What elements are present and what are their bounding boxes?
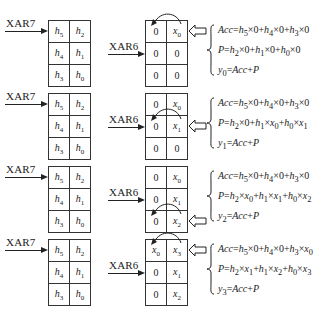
equation-line: y1=Acc+P bbox=[218, 135, 309, 155]
equation-line: y0=Acc+P bbox=[218, 62, 309, 82]
input-sample-arrow-icon bbox=[188, 119, 208, 133]
equations: Acc=h5×0+h4×0+h3×0P=h2×0+h1×x0+h0×x1y1=A… bbox=[218, 95, 309, 155]
input-sample-arrow-icon bbox=[188, 214, 208, 228]
xar6-pointer-line bbox=[108, 54, 140, 55]
xar7-pointer-label: XAR7 bbox=[6, 163, 36, 175]
coefficient-buffer-grid: h5h2h4h1h3h0 bbox=[48, 93, 91, 160]
data-cell: 0 bbox=[146, 284, 167, 306]
equation-line: Acc=h5×0+h4×0+h3×0 bbox=[218, 22, 309, 42]
equation-line: P=h2×x0+h1×x1+h0×x2 bbox=[218, 188, 311, 208]
equation-line: Acc=h5×0+h4×0+h3×0 bbox=[218, 168, 311, 188]
coefficient-cell: h1 bbox=[70, 262, 91, 284]
data-buffer-grid: 0x00000 bbox=[145, 20, 188, 87]
coefficient-cell: h4 bbox=[49, 189, 70, 211]
data-cell: 0 bbox=[146, 138, 167, 160]
coefficient-cell: h3 bbox=[49, 65, 70, 87]
arrow-right-icon bbox=[138, 270, 145, 276]
arrow-right-icon bbox=[41, 101, 48, 107]
equation-line: y2=Acc+P bbox=[218, 208, 311, 228]
coefficient-cell: h5 bbox=[49, 94, 70, 116]
coefficient-cell: h5 bbox=[49, 167, 70, 189]
equation-line: P=h2×x1+h1×x2+h0×x3 bbox=[218, 261, 313, 281]
xar6-pointer-line bbox=[108, 127, 140, 128]
input-sample-arrow-icon bbox=[188, 243, 208, 257]
xar6-pointer-line bbox=[108, 200, 140, 201]
xar6-pointer-label: XAR6 bbox=[109, 40, 139, 52]
coefficient-cell: h4 bbox=[49, 43, 70, 65]
equations: Acc=h5×0+h4×0+h3×x0P=h2×x1+h1×x2+h0×x3y3… bbox=[218, 241, 313, 301]
circular-shift-arc-icon bbox=[147, 12, 191, 26]
xar7-pointer-line bbox=[5, 104, 43, 105]
xar7-pointer-label: XAR7 bbox=[6, 90, 36, 102]
xar7-pointer-label: XAR7 bbox=[6, 236, 36, 248]
data-buffer-grid: 0x00x10x2 bbox=[145, 166, 188, 233]
coefficient-cell: h1 bbox=[70, 43, 91, 65]
xar6-pointer-label: XAR6 bbox=[109, 259, 139, 271]
data-cell: 0 bbox=[167, 65, 188, 87]
arrow-right-icon bbox=[138, 51, 145, 57]
left-brace-icon bbox=[206, 243, 216, 295]
coefficient-cell: h5 bbox=[49, 240, 70, 262]
coefficient-cell: h2 bbox=[70, 94, 91, 116]
equation-line: Acc=h5×0+h4×0+h3×0 bbox=[218, 95, 309, 115]
coefficient-cell: h5 bbox=[49, 21, 70, 43]
coefficient-cell: h3 bbox=[49, 284, 70, 306]
circular-shift-arc-icon bbox=[147, 107, 191, 121]
arrow-right-icon bbox=[138, 197, 145, 203]
data-cell: x0 bbox=[167, 167, 188, 189]
data-cell: x2 bbox=[167, 284, 188, 306]
coefficient-cell: h2 bbox=[70, 21, 91, 43]
data-cell: 0 bbox=[146, 43, 167, 65]
data-cell: 0 bbox=[146, 167, 167, 189]
coefficient-cell: h0 bbox=[70, 65, 91, 87]
step-block-2: XAR7h5h2h4h1h3h0XAR60x00x10x2Acc=h5×0+h4… bbox=[0, 166, 328, 236]
data-cell: 0 bbox=[146, 262, 167, 284]
xar7-pointer-line bbox=[5, 31, 43, 32]
equation-line: P=h2×0+h1×0+h0×0 bbox=[218, 42, 309, 62]
coefficient-buffer-grid: h5h2h4h1h3h0 bbox=[48, 239, 91, 306]
coefficient-cell: h3 bbox=[49, 211, 70, 233]
data-buffer-grid: x0x30x10x2 bbox=[145, 239, 188, 306]
step-block-0: XAR7h5h2h4h1h3h0XAR60x00000Acc=h5×0+h4×0… bbox=[0, 20, 328, 90]
data-cell: 0 bbox=[146, 65, 167, 87]
coefficient-cell: h1 bbox=[70, 189, 91, 211]
coefficient-cell: h0 bbox=[70, 138, 91, 160]
coefficient-cell: h3 bbox=[49, 138, 70, 160]
arrow-right-icon bbox=[41, 247, 48, 253]
xar6-pointer-line bbox=[108, 273, 140, 274]
arrow-right-icon bbox=[41, 28, 48, 34]
arrow-right-icon bbox=[138, 124, 145, 130]
left-brace-icon bbox=[206, 170, 216, 222]
coefficient-buffer-grid: h5h2h4h1h3h0 bbox=[48, 20, 91, 87]
left-brace-icon bbox=[206, 97, 216, 149]
step-block-1: XAR7h5h2h4h1h3h0XAR60x00x100Acc=h5×0+h4×… bbox=[0, 93, 328, 163]
step-block-3: XAR7h5h2h4h1h3h0XAR6x0x30x10x2Acc=h5×0+h… bbox=[0, 239, 328, 309]
circular-shift-arc-icon bbox=[147, 202, 191, 216]
coefficient-cell: h0 bbox=[70, 211, 91, 233]
coefficient-cell: h4 bbox=[49, 262, 70, 284]
data-cell: 0 bbox=[167, 43, 188, 65]
equation-line: P=h2×0+h1×x0+h0×x1 bbox=[218, 115, 309, 135]
xar7-pointer-line bbox=[5, 250, 43, 251]
left-brace-icon bbox=[206, 24, 216, 76]
data-cell: 0 bbox=[167, 138, 188, 160]
xar7-pointer-label: XAR7 bbox=[6, 17, 36, 29]
input-sample-arrow-icon bbox=[188, 24, 208, 38]
coefficient-buffer-grid: h5h2h4h1h3h0 bbox=[48, 166, 91, 233]
coefficient-cell: h2 bbox=[70, 240, 91, 262]
coefficient-cell: h1 bbox=[70, 116, 91, 138]
xar6-pointer-label: XAR6 bbox=[109, 186, 139, 198]
data-buffer-grid: 0x00x100 bbox=[145, 93, 188, 160]
xar7-pointer-line bbox=[5, 177, 43, 178]
equation-line: y3=Acc+P bbox=[218, 281, 313, 301]
xar6-pointer-label: XAR6 bbox=[109, 113, 139, 125]
arrow-right-icon bbox=[41, 174, 48, 180]
circular-shift-arc-icon bbox=[147, 231, 191, 245]
coefficient-cell: h2 bbox=[70, 167, 91, 189]
equations: Acc=h5×0+h4×0+h3×0P=h2×x0+h1×x1+h0×x2y2=… bbox=[218, 168, 311, 228]
equation-line: Acc=h5×0+h4×0+h3×x0 bbox=[218, 241, 313, 261]
data-cell: x1 bbox=[167, 262, 188, 284]
coefficient-cell: h0 bbox=[70, 284, 91, 306]
coefficient-cell: h4 bbox=[49, 116, 70, 138]
equations: Acc=h5×0+h4×0+h3×0P=h2×0+h1×0+h0×0y0=Acc… bbox=[218, 22, 309, 82]
